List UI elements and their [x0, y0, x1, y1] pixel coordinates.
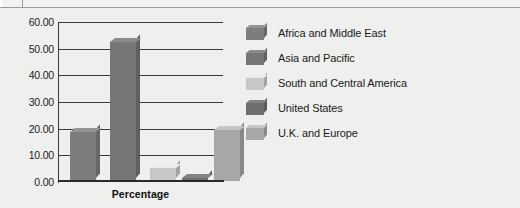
- gridline-40: [58, 75, 223, 76]
- bar-uk-and-europe: [214, 130, 240, 181]
- legend-swatch-icon: [246, 25, 266, 40]
- legend-item-united-states: United States: [246, 95, 514, 120]
- y-tick-label: 40.00: [8, 70, 54, 80]
- gridline-30: [58, 102, 223, 103]
- chart-legend: Africa and Middle East Asia and Pacific …: [246, 20, 514, 145]
- y-tick-label: 50.00: [8, 44, 54, 54]
- legend-item-uk-and-europe: U.K. and Europe: [246, 120, 514, 145]
- legend-item-asia-and-pacific: Asia and Pacific: [246, 45, 514, 70]
- y-tick-label: 60.00: [8, 17, 54, 27]
- bar-africa-and-middle-east: [70, 132, 96, 181]
- legend-swatch-icon: [246, 50, 266, 65]
- legend-label: South and Central America: [278, 77, 407, 89]
- plot-canvas: [58, 22, 223, 182]
- legend-item-south-and-central-america: South and Central America: [246, 70, 514, 95]
- x-axis-line: [58, 180, 224, 182]
- legend-item-africa-and-middle-east: Africa and Middle East: [246, 20, 514, 45]
- bar-south-and-central-america: [150, 168, 176, 181]
- legend-swatch-icon: [246, 100, 266, 115]
- gridline-60: [58, 22, 223, 23]
- gridline-50: [58, 49, 223, 50]
- scanned-page: 60.00 50.00 40.00 30.00 20.00 10.00 0.00: [0, 0, 520, 208]
- y-axis-tick-labels: 60.00 50.00 40.00 30.00 20.00 10.00 0.00: [8, 22, 54, 182]
- bar-asia-and-pacific: [110, 42, 136, 181]
- legend-swatch-icon: [246, 125, 266, 140]
- x-axis-title: Percentage: [58, 188, 223, 200]
- plot-area: 60.00 50.00 40.00 30.00 20.00 10.00 0.00: [0, 8, 240, 208]
- y-tick-label: 10.00: [8, 150, 54, 160]
- y-tick-label: 30.00: [8, 97, 54, 107]
- legend-label: Asia and Pacific: [278, 52, 355, 64]
- legend-label: United States: [278, 102, 343, 114]
- legend-label: U.K. and Europe: [278, 127, 358, 139]
- bar-chart-figure: 60.00 50.00 40.00 30.00 20.00 10.00 0.00: [0, 8, 520, 208]
- y-tick-label: 20.00: [8, 124, 54, 134]
- legend-swatch-icon: [246, 75, 266, 90]
- y-tick-label: 0.00: [8, 177, 54, 187]
- legend-label: Africa and Middle East: [278, 27, 386, 39]
